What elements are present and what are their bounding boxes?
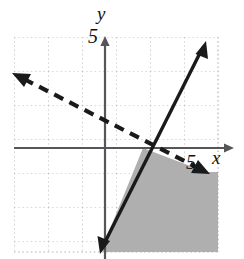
y-axis-tick-label-5: 5 — [88, 26, 98, 46]
graph-figure: y x 5 5 — [0, 0, 244, 259]
y-axis-label: y — [97, 4, 105, 23]
coordinate-plane — [0, 0, 244, 259]
x-axis-label: x — [212, 148, 220, 167]
x-axis-tick-label-5: 5 — [186, 152, 196, 172]
